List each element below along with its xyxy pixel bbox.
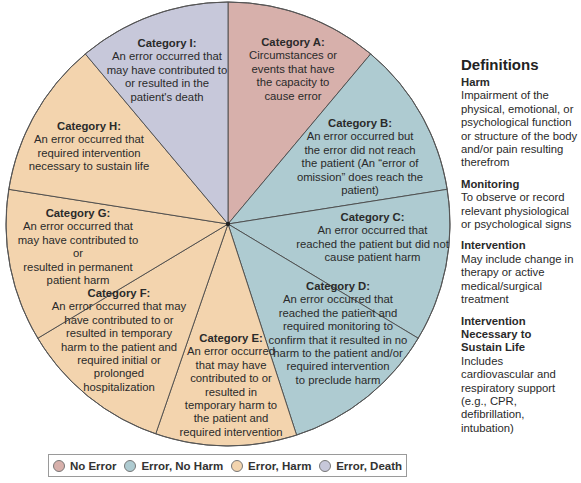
segment-desc: may have contributed to or <box>12 234 144 261</box>
segment-desc: harm to the patient and <box>48 341 190 354</box>
segment-desc: events that have <box>234 63 352 76</box>
segment-desc: patient's death <box>106 91 228 104</box>
segment-desc: the capacity to <box>234 76 352 89</box>
segment-label-a: Category A: Circumstances or events that… <box>234 36 352 103</box>
segment-desc: contributed to or <box>175 372 287 385</box>
definition-text: To observe or record relevant physiologi… <box>461 191 572 230</box>
segment-desc: patient) <box>290 184 430 197</box>
legend: No Error Error, No Harm Error, Harm Erro… <box>48 454 407 477</box>
segment-label-g: Category G: An error occurred that may h… <box>12 207 144 287</box>
segment-desc: or resulted in the <box>106 77 228 90</box>
legend-item-error-no-harm: Error, No Harm <box>124 460 223 472</box>
legend-swatch-icon <box>124 460 136 472</box>
segment-desc: temporary harm to <box>175 399 287 412</box>
segment-label-e: Category E: An error occurred that may h… <box>175 332 287 439</box>
legend-swatch-icon <box>319 460 331 472</box>
segment-desc: An error occurred that may <box>48 300 190 313</box>
segment-desc: resulted in <box>175 386 287 399</box>
segment-desc: the patient (An “error of <box>290 157 430 170</box>
segment-desc: may have contributed to <box>106 64 228 77</box>
segment-desc: necessary to sustain life <box>24 160 154 173</box>
definition-intervention-sustain-life: Intervention Necessary to Sustain Life I… <box>461 315 579 436</box>
segment-title: Category C: <box>290 211 455 224</box>
segment-desc: An error occurred that <box>12 220 144 233</box>
segment-label-i: Category I: An error occurred that may h… <box>106 37 228 104</box>
segment-label-h: Category H: An error occurred that requi… <box>24 120 154 174</box>
legend-item-error-harm: Error, Harm <box>231 460 311 472</box>
definition-text: May include change in therapy or active … <box>461 253 573 305</box>
legend-item-error-death: Error, Death <box>319 460 402 472</box>
segment-desc: patient harm <box>12 274 144 287</box>
segment-desc: omission” does reach the <box>290 171 430 184</box>
segment-desc: An error occurred that <box>106 50 228 63</box>
legend-item-no-error: No Error <box>53 460 117 472</box>
segment-label-b: Category B: An error occurred but the er… <box>290 117 430 197</box>
segment-title: Category G: <box>12 207 144 220</box>
definition-term: Monitoring <box>461 178 579 191</box>
definitions-panel: Definitions Harm Impairment of the physi… <box>461 56 579 443</box>
segment-desc: the patient and <box>175 412 287 425</box>
definition-intervention: Intervention May include change in thera… <box>461 239 579 306</box>
segment-desc: cause patient harm <box>290 251 455 264</box>
segment-title: Category A: <box>234 36 352 49</box>
definitions-heading: Definitions <box>461 56 579 74</box>
legend-label: Error, Death <box>336 460 402 472</box>
segment-desc: have contributed to or <box>48 314 190 327</box>
segment-desc: hospitalization <box>48 381 190 394</box>
legend-label: No Error <box>70 460 117 472</box>
legend-swatch-icon <box>53 460 65 472</box>
segment-title: Category H: <box>24 120 154 133</box>
definition-term: Intervention Necessary to Sustain Life <box>461 315 551 355</box>
segment-desc: An error occurred but <box>290 130 430 143</box>
segment-desc: Circumstances or <box>234 49 352 62</box>
segment-desc: required intervention <box>24 147 154 160</box>
legend-swatch-icon <box>231 460 243 472</box>
definition-harm: Harm Impairment of the physical, emotion… <box>461 76 579 170</box>
definition-term: Harm <box>461 76 579 89</box>
segment-desc: resulted in temporary <box>48 327 190 340</box>
segment-label-c: Category C: An error occurred that reach… <box>290 211 455 265</box>
segment-title: Category D: <box>263 280 413 293</box>
segment-desc: An error occurred <box>175 345 287 358</box>
definition-monitoring: Monitoring To observe or record relevant… <box>461 178 579 232</box>
segment-desc: reached the patient and <box>263 307 413 320</box>
segment-title: Category B: <box>290 117 430 130</box>
segment-desc: that may have <box>175 359 287 372</box>
segment-desc: reached the patient but did not <box>290 238 455 251</box>
segment-desc: required intervention <box>175 426 287 439</box>
segment-title: Category F: <box>48 287 190 300</box>
segment-title: Category E: <box>175 332 287 345</box>
segment-desc: An error occurred that <box>290 224 455 237</box>
segment-desc: resulted in permanent <box>12 261 144 274</box>
segment-desc: the error did not reach <box>290 144 430 157</box>
segment-label-f: Category F: An error occurred that may h… <box>48 287 190 394</box>
wheel-center-dot <box>226 222 230 226</box>
segment-desc: required initial or <box>48 354 190 367</box>
legend-label: Error, Harm <box>248 460 311 472</box>
segment-desc: prolonged <box>48 367 190 380</box>
definition-text: Impairment of the physical, emotional, o… <box>461 89 577 168</box>
segment-title: Category I: <box>106 37 228 50</box>
segment-desc: An error occurred that <box>24 133 154 146</box>
definition-text: Includes cardiovascular and respiratory … <box>461 355 556 434</box>
definition-term: Intervention <box>461 239 579 252</box>
segment-desc: cause error <box>234 90 352 103</box>
legend-label: Error, No Harm <box>141 460 223 472</box>
segment-desc: An error occurred that <box>263 293 413 306</box>
